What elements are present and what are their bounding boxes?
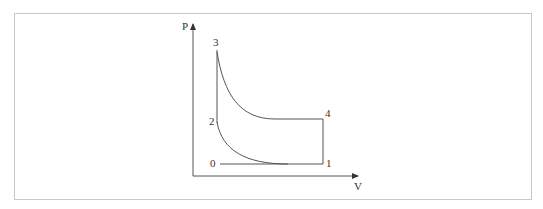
v-axis-label: V	[354, 180, 362, 192]
point-label-1: 1	[326, 157, 332, 169]
p-axis-label: P	[182, 20, 188, 32]
pv-diagram: P V 3 2 4 0 1	[0, 0, 543, 209]
point-label-4: 4	[325, 107, 331, 119]
curve-3-4	[217, 52, 323, 119]
curve-2-1	[217, 122, 288, 164]
point-label-2: 2	[209, 115, 215, 127]
point-label-3: 3	[213, 36, 219, 48]
point-label-0: 0	[210, 157, 216, 169]
